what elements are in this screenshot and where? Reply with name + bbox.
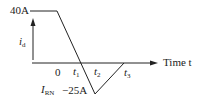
t3-label: t3	[124, 67, 131, 82]
time-axis-label: Time t	[163, 57, 192, 68]
origin-label: 0	[55, 67, 61, 78]
t2-label: t2	[94, 66, 101, 81]
t2-subscript: 2	[97, 71, 101, 79]
y-axis-label: id	[19, 36, 26, 51]
irn-subscript: RN	[45, 89, 55, 97]
current-axis-arrowhead-icon	[31, 18, 36, 26]
reverse-peak-current-label: −25A	[62, 85, 87, 96]
peak-current-label: 40A	[10, 5, 29, 16]
irn-label: IRN	[41, 84, 54, 99]
t1-subscript: 1	[76, 71, 80, 79]
t1-label: t1	[73, 66, 80, 81]
waveform-diagram	[0, 0, 202, 102]
current-waveform	[30, 11, 124, 94]
t3-subscript: 3	[127, 72, 131, 80]
time-axis-arrowhead-icon	[150, 61, 158, 66]
y-axis-subscript: d	[22, 41, 26, 49]
